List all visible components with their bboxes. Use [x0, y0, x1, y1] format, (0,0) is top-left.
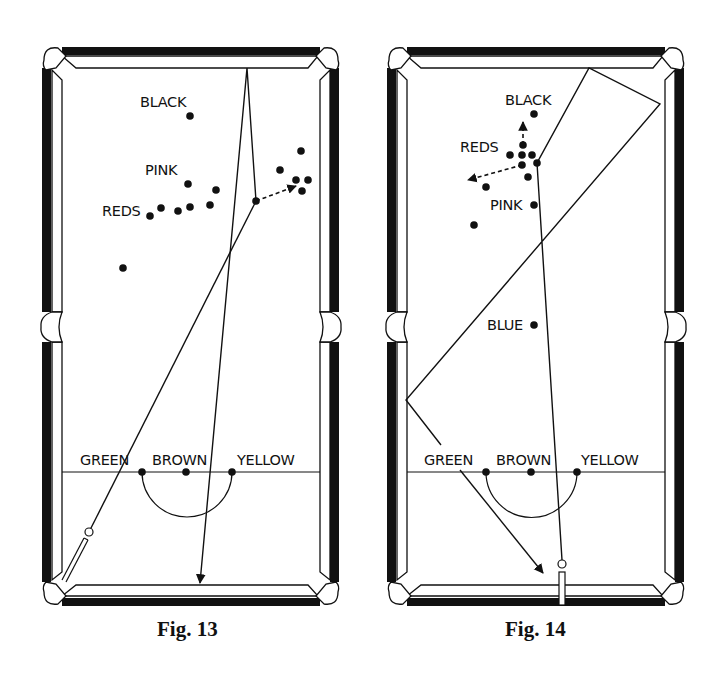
right-rail-lower [330, 342, 339, 582]
label-black: BLACK [505, 92, 552, 108]
label-yellow: YELLOW [236, 452, 295, 468]
left-rail-lower [42, 342, 51, 582]
ball-black [186, 112, 194, 120]
ball-contact [533, 159, 541, 167]
ball-blue [530, 321, 538, 329]
cue-ball [558, 560, 566, 568]
bottom-rail [62, 598, 320, 606]
cue-ball-final-path [460, 470, 543, 573]
label-reds: REDS [460, 139, 499, 155]
label-pink: PINK [145, 162, 178, 178]
label-brown: BROWN [496, 452, 551, 468]
ball-yellow [573, 468, 581, 476]
label-yellow: YELLOW [580, 452, 639, 468]
caption-fig14: Fig. 14 [505, 617, 566, 641]
label-green: GREEN [424, 452, 473, 468]
table-fig13 [41, 47, 341, 606]
cue-ball-path [406, 68, 660, 560]
label-blue: BLUE [487, 317, 523, 333]
label-reds: REDS [102, 203, 141, 219]
ball-green [482, 468, 490, 476]
ball-pink [184, 180, 192, 188]
pocket-middle-right [320, 312, 341, 342]
caption-fig13: Fig. 13 [157, 617, 218, 641]
fig14-balls [470, 110, 581, 476]
ball-black [530, 110, 538, 118]
label-green: GREEN [80, 452, 129, 468]
fig14-paths [406, 68, 660, 605]
d-semicircle [142, 472, 232, 517]
ball-pink [530, 201, 538, 209]
ball-brown [182, 468, 190, 476]
label-black: BLACK [140, 94, 187, 110]
cue-ball [85, 528, 93, 536]
snooker-diagrams: BLACK PINK REDS GREEN BROWN YELLOW Fig. … [0, 0, 713, 674]
ball-green [138, 468, 146, 476]
fig13-paths [62, 68, 296, 583]
pocket-middle-left [41, 312, 62, 342]
cue-stick [559, 572, 565, 605]
left-arrow [468, 165, 522, 180]
ball-yellow [228, 468, 236, 476]
top-rail [62, 47, 320, 55]
label-pink: PINK [490, 197, 523, 213]
ball-brown [527, 468, 535, 476]
ball-contact [252, 197, 260, 205]
right-rail-upper [330, 68, 339, 312]
label-brown: BROWN [152, 452, 207, 468]
left-rail-upper [42, 68, 51, 312]
object-ball-path [200, 68, 256, 583]
deflection-arrow [256, 186, 296, 201]
